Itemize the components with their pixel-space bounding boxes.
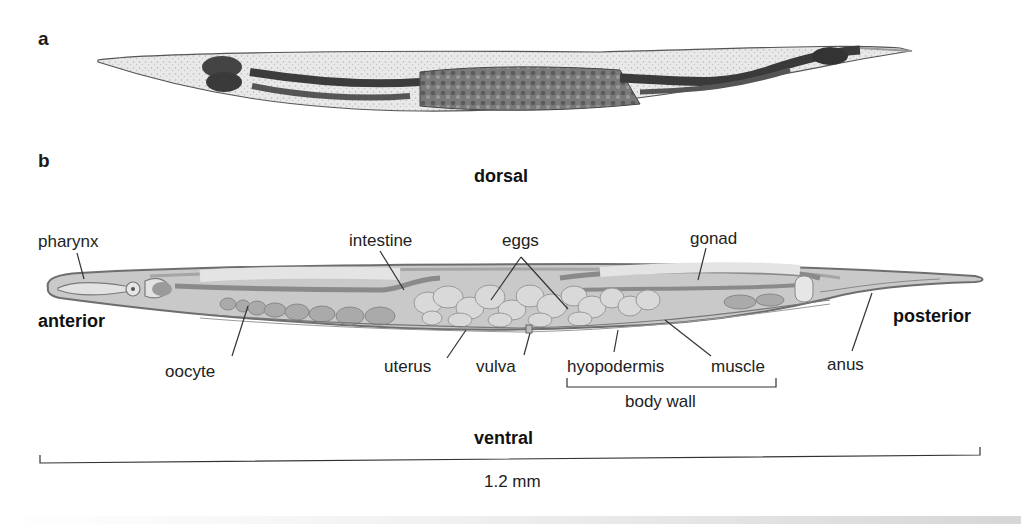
page-edge-shadow — [0, 516, 1021, 524]
label-gonad: gonad — [690, 229, 737, 249]
label-eggs: eggs — [502, 231, 539, 251]
label-vulva: vulva — [476, 357, 516, 377]
label-posterior: posterior — [893, 306, 971, 327]
label-body-wall: body wall — [625, 392, 696, 412]
label-hyopodermis: hyopodermis — [567, 357, 664, 377]
label-oocyte: oocyte — [165, 362, 215, 382]
label-intestine: intestine — [349, 231, 412, 251]
label-muscle: muscle — [711, 357, 765, 377]
label-anus: anus — [827, 355, 864, 375]
label-dorsal: dorsal — [474, 166, 528, 187]
label-anterior: anterior — [38, 311, 105, 332]
label-uterus: uterus — [384, 357, 431, 377]
scale-bar-label: 1.2 mm — [484, 472, 541, 492]
label-pharynx: pharynx — [38, 232, 98, 252]
label-ventral: ventral — [474, 428, 533, 449]
